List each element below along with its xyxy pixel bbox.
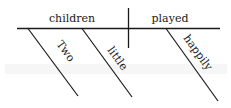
modifier-line-two [28, 29, 78, 97]
subject-word: children [49, 12, 95, 25]
sentence-diagram: children played Two little happily [0, 0, 231, 108]
diagram-canvas: children played Two little happily [0, 0, 231, 108]
predicate-word: played [152, 12, 189, 25]
modifier-word-two: Two [54, 38, 78, 65]
